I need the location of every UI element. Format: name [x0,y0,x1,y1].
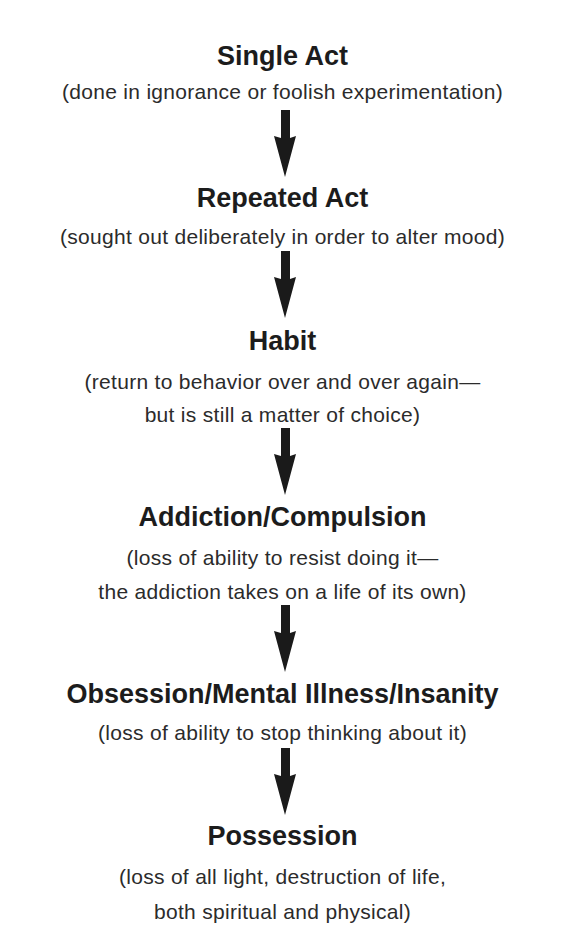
stage-title-habit: Habit [0,325,565,357]
stage-title-obsession: Obsession/Mental Illness/Insanity [0,678,565,710]
arrow-down-icon [271,251,299,319]
stage-title-single-act: Single Act [0,40,565,72]
arrow-down-icon [271,110,299,178]
stage-description-possession-line-1: (loss of all light, destruction of life, [0,859,565,894]
arrow-down-icon [271,605,299,673]
stage-description-possession-line-2: both spiritual and physical) [0,894,565,929]
stage-description-addiction-line-1: (loss of ability to resist doing it— [0,540,565,575]
stage-description-obsession: (loss of ability to stop thinking about … [0,715,565,750]
arrow-down-icon [271,428,299,496]
stage-description-habit-line-2: but is still a matter of choice) [0,397,565,432]
stage-description-addiction-line-2: the addiction takes on a life of its own… [0,574,565,609]
stage-description-habit-line-1: (return to behavior over and over again— [0,364,565,399]
stage-title-possession: Possession [0,820,565,852]
stage-title-addiction-compulsion: Addiction/Compulsion [0,501,565,533]
stage-description-single-act: (done in ignorance or foolish experiment… [0,74,565,109]
stage-description-repeated-act: (sought out deliberately in order to alt… [0,219,565,254]
stage-title-repeated-act: Repeated Act [0,182,565,214]
arrow-down-icon [271,748,299,816]
